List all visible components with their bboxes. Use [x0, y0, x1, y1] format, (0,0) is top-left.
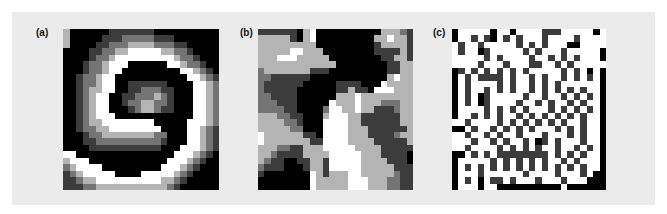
grid-cell — [407, 184, 413, 190]
panel-label-c: (c) — [433, 27, 445, 38]
panel-label-b: (b) — [240, 27, 253, 38]
blob-grid — [258, 29, 413, 190]
grid-cell — [213, 184, 220, 190]
figure-panel: (a) (b) (c) — [12, 12, 655, 205]
maze-grid — [452, 29, 606, 190]
grid-cell — [600, 184, 606, 190]
spiral-grid — [63, 29, 219, 190]
panel-label-a: (a) — [36, 27, 48, 38]
